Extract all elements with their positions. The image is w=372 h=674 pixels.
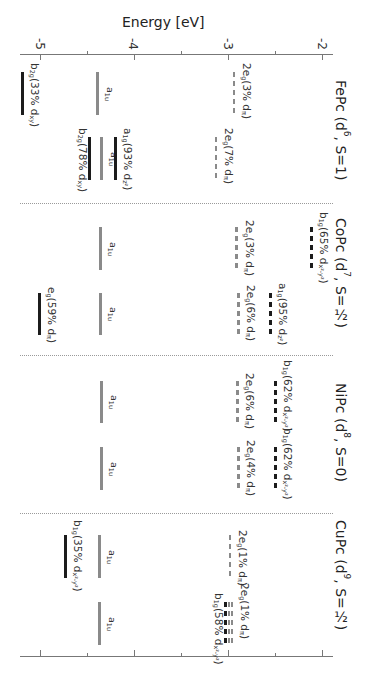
energy-level-diagram: Energy [eV] -5 -4 -3 -2 FePc (d6, S=1)b2…	[0, 0, 372, 674]
level-label-2eg: 2eg(7% dπ)	[219, 128, 236, 184]
minor-tick	[275, 51, 276, 54]
energy-level-a1u	[100, 381, 103, 423]
energy-level-b1g	[274, 447, 277, 490]
level-label-2eg: 2eg(6% dπ)	[240, 373, 257, 429]
major-tick	[228, 650, 229, 656]
energy-level-2eg	[237, 293, 240, 335]
axis-title: Energy [eV]	[122, 14, 205, 30]
level-label-b1g: b1g(65% dx²-y²)	[314, 212, 331, 284]
level-label-2eg: 2eg(1% dπ)	[235, 583, 252, 639]
major-tick	[228, 54, 229, 60]
level-label-b2g: b2g(33% dxy)	[25, 63, 42, 127]
energy-level-a1u	[96, 72, 99, 115]
energy-level-a1u	[100, 447, 103, 490]
compound-label-copc: CoPc (d7, S=½)	[332, 218, 356, 328]
level-label-b1g: b1g(62% dx²-y²)	[278, 360, 295, 432]
minor-tick	[181, 653, 182, 656]
compound-label-cupc: CuPc (d9, S=½)	[332, 520, 356, 630]
major-tick	[322, 54, 323, 60]
level-label-b1g: b1g(58% dx²-y²)	[209, 593, 226, 665]
separator-nipc-cupc	[20, 513, 333, 514]
tick-label-minus5: -5	[34, 38, 46, 50]
energy-level-b1g	[64, 535, 67, 578]
energy-level-a1u	[98, 602, 101, 645]
level-label-b1g: b1g(62% dx²-y²)	[278, 428, 295, 500]
tick-label-minus3: -3	[222, 38, 234, 50]
minor-tick	[181, 51, 182, 54]
major-tick	[134, 650, 135, 656]
compound-label-fepc: FePc (d6, S=1)	[332, 80, 356, 180]
energy-level-a1u	[99, 293, 102, 335]
energy-level-2eg	[215, 137, 218, 180]
separator-copc-nipc	[20, 355, 333, 356]
major-tick	[322, 650, 323, 656]
energy-level-2eg	[229, 535, 232, 578]
top-energy-axis	[20, 54, 333, 55]
energy-level-b1g	[274, 381, 277, 423]
level-label-a1g: a1g(95% dz²)	[273, 283, 290, 345]
level-label-a1u: a1u	[102, 550, 119, 564]
separator-fepc-copc	[20, 203, 333, 204]
tick-label-minus2: -2	[316, 38, 328, 50]
minor-tick	[275, 653, 276, 656]
level-label-b1g: b1g(35% dx²-y²)	[68, 520, 85, 592]
level-label-2eg: 2eg(4% dπ)	[241, 440, 258, 496]
energy-level-a1g	[269, 293, 272, 335]
energy-level-b2g	[21, 72, 24, 115]
level-label-2eg: 2eg(6% dπ)	[241, 285, 258, 341]
energy-level-2eg	[233, 72, 236, 115]
compound-label-nipc: NiPc (d8, S=0)	[332, 383, 356, 482]
energy-level-a1u	[99, 227, 102, 270]
level-label-b2g: b2g(78% dxy)	[73, 128, 90, 192]
level-label-a1u: a1u	[103, 242, 120, 256]
energy-level-a1g	[114, 137, 117, 180]
major-tick	[134, 54, 135, 60]
energy-level-a1u	[98, 535, 101, 578]
level-label-a1u: a1u	[100, 87, 117, 101]
minor-tick	[87, 653, 88, 656]
energy-level-2eg	[235, 227, 238, 270]
energy-level-a1u	[100, 137, 103, 180]
energy-level-2eg	[231, 602, 234, 645]
energy-level-2eg	[236, 381, 239, 423]
energy-level-2eg	[237, 447, 240, 490]
level-label-a1u: a1u	[103, 307, 120, 321]
level-label-a1u: a1u	[104, 462, 121, 476]
level-label-2eg: 2eg(3% dπ)	[237, 63, 254, 119]
level-label-eg: eg(59% dπ)	[42, 287, 59, 343]
level-label-a1g: a1g(93% dz²)	[118, 128, 135, 190]
bottom-energy-axis	[20, 656, 333, 657]
energy-level-b1g	[310, 227, 313, 270]
major-tick	[40, 54, 41, 60]
level-label-2eg: 2eg(3% dπ)	[239, 220, 256, 276]
energy-level-eg	[38, 293, 41, 335]
major-tick	[40, 650, 41, 656]
level-label-a1u: a1u	[104, 395, 121, 409]
level-label-a1u: a1u	[102, 617, 119, 631]
minor-tick	[87, 51, 88, 54]
level-label-2eg: 2eg(1% dπ)	[233, 530, 250, 586]
tick-label-minus4: -4	[127, 38, 139, 50]
